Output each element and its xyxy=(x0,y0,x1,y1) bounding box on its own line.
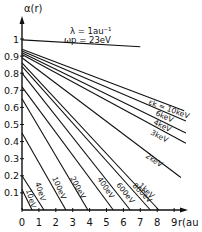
y-tick-label: 0.6 xyxy=(4,102,19,113)
y-tick-label: 0.7 xyxy=(4,85,19,96)
y-tick-label: 0.2 xyxy=(4,170,19,181)
x-tick-label: 8 xyxy=(154,217,160,228)
x-tick-labels: 0123456789 xyxy=(19,217,177,228)
label-200ev: 200eV xyxy=(68,175,88,201)
y-tick-label: 0.1 xyxy=(4,187,19,198)
chart: 0.10.20.30.40.50.60.70.80.91 0123456789 … xyxy=(0,0,202,232)
x-axis-arrow-icon xyxy=(180,208,188,213)
y-tick-label: 0.5 xyxy=(4,119,19,130)
x-tick-label: 1 xyxy=(36,217,42,228)
x-axis-label: r(au xyxy=(178,217,198,228)
y-tick-label: 1 xyxy=(13,34,19,45)
x-tick-label: 3 xyxy=(70,217,76,228)
x-tick-label: 9 xyxy=(171,217,177,228)
x-tick-label: 0 xyxy=(19,217,25,228)
x-tick-label: 5 xyxy=(103,217,109,228)
x-tick-label: 7 xyxy=(137,217,143,228)
x-tick-label: 6 xyxy=(120,217,126,228)
y-axis-label: α(r) xyxy=(24,3,43,14)
y-tick-label: 0.4 xyxy=(4,136,19,147)
y-tick-label: 0.9 xyxy=(4,51,19,62)
label-400ev: 400eV xyxy=(95,175,116,201)
y-axis-arrow-icon xyxy=(20,16,25,24)
y-tick-label: 0.8 xyxy=(4,68,19,79)
y-tick-labels: 0.10.20.30.40.50.60.70.80.91 xyxy=(4,34,19,199)
x-tick-label: 4 xyxy=(86,217,92,228)
y-tick-label: 0.3 xyxy=(4,153,19,164)
label-2kev: 2keV xyxy=(144,151,165,169)
x-tick-label: 2 xyxy=(53,217,59,228)
